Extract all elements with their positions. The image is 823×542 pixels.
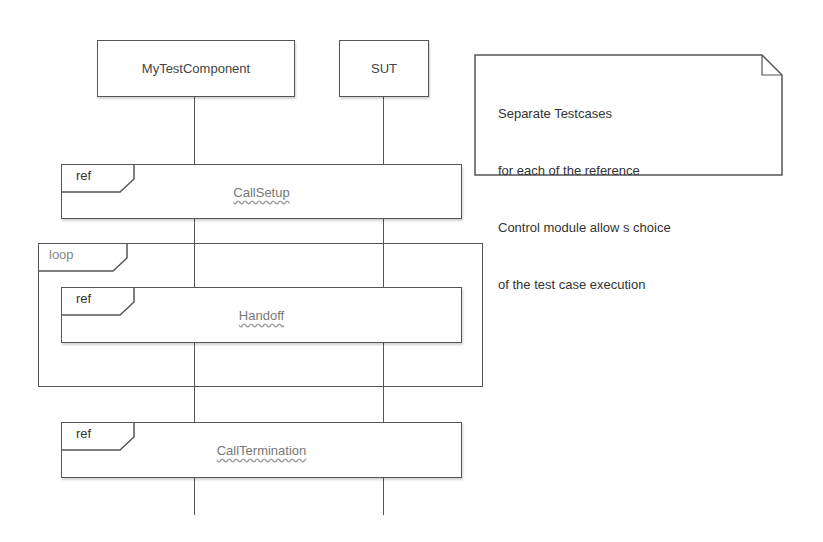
- sequence-diagram-canvas: MyTestComponent SUT ref CallSetup loop r…: [0, 0, 823, 542]
- note-line: for each of the reference: [498, 161, 671, 180]
- instance-label: MyTestComponent: [142, 61, 250, 76]
- ref-frame-handoff[interactable]: ref Handoff: [61, 287, 462, 343]
- ref-name-callsetup[interactable]: CallSetup: [62, 185, 461, 200]
- note-line: of the test case execution: [498, 275, 671, 294]
- ref-frame-calltermination[interactable]: ref CallTermination: [61, 422, 462, 478]
- ref-tag-label: ref: [76, 168, 91, 183]
- note-line: Control module allow s choice: [498, 218, 671, 237]
- instance-sut[interactable]: SUT: [339, 40, 429, 97]
- note-text: Separate Testcases for each of the refer…: [498, 66, 671, 332]
- ref-tag-label: ref: [76, 426, 91, 441]
- ref-name-calltermination[interactable]: CallTermination: [62, 443, 461, 458]
- comment-note[interactable]: Separate Testcases for each of the refer…: [474, 54, 784, 177]
- ref-tag-label: ref: [76, 291, 91, 306]
- ref-frame-callsetup[interactable]: ref CallSetup: [61, 164, 462, 219]
- instance-label: SUT: [371, 61, 397, 76]
- ref-name-handoff[interactable]: Handoff: [62, 308, 461, 323]
- loop-tag-label: loop: [49, 247, 74, 262]
- note-line: Separate Testcases: [498, 104, 671, 123]
- loop-tag: loop: [39, 244, 131, 272]
- instance-mytestcomponent[interactable]: MyTestComponent: [97, 40, 295, 97]
